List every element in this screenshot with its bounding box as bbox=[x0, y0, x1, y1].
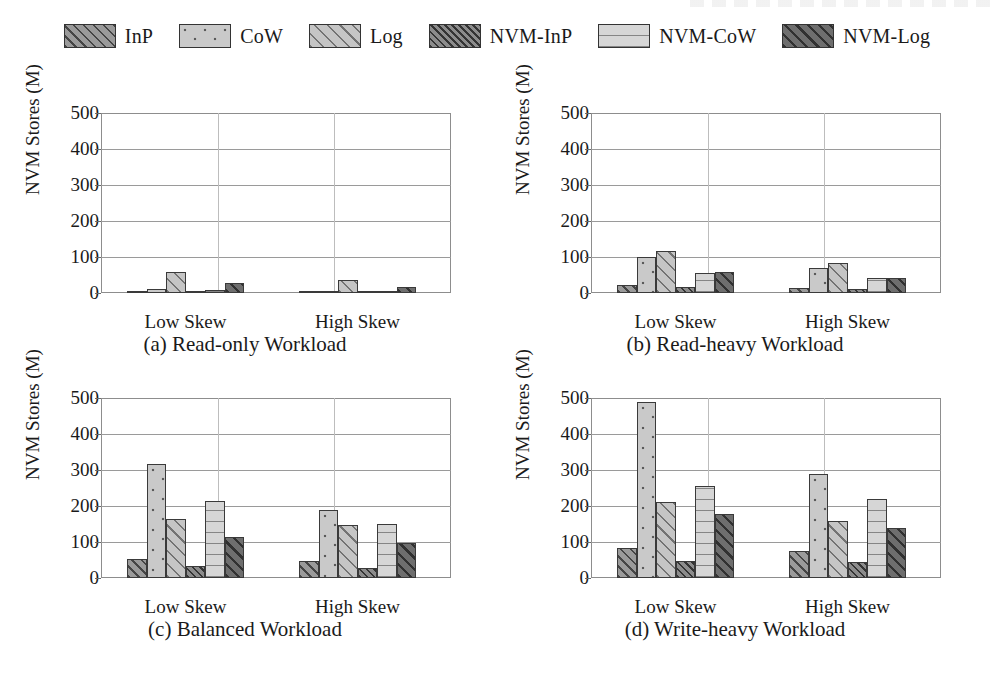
legend-label: NVM-CoW bbox=[659, 25, 756, 48]
y-axis-tick-label: 200 bbox=[529, 210, 589, 232]
y-axis-tick-mark bbox=[585, 149, 591, 150]
gridline bbox=[101, 257, 451, 258]
legend-entry-cow: CoW bbox=[179, 24, 283, 48]
legend-swatch-nvm-inp-icon bbox=[429, 24, 481, 48]
y-axis-tick-mark bbox=[95, 149, 101, 150]
plot-area: 0100200300400500Low SkewHigh Skew bbox=[101, 113, 451, 293]
legend-swatch-log-icon bbox=[309, 24, 361, 48]
y-axis-tick-mark bbox=[95, 113, 101, 114]
gridline bbox=[101, 221, 451, 222]
bar-cow-high-skew bbox=[809, 268, 829, 293]
y-axis-tick-mark bbox=[585, 221, 591, 222]
x-axis-tick-label: Low Skew bbox=[635, 311, 717, 333]
legend-swatch-cow-icon bbox=[179, 24, 231, 48]
bar-cow-low-skew bbox=[637, 402, 657, 578]
bar-log-low-skew bbox=[166, 519, 186, 578]
legend-entry-nvm-inp: NVM-InP bbox=[429, 24, 573, 48]
y-axis-tick-mark bbox=[95, 398, 101, 399]
gridline bbox=[101, 149, 451, 150]
bar-nvm-inp-low-skew bbox=[676, 287, 696, 293]
bar-inp-low-skew bbox=[617, 285, 637, 293]
bar-cow-high-skew bbox=[809, 474, 829, 578]
y-axis-tick-label: 400 bbox=[39, 138, 99, 160]
plot-frame bbox=[101, 113, 451, 293]
bar-nvm-cow-high-skew bbox=[867, 499, 887, 578]
gridline bbox=[101, 185, 451, 186]
y-axis-tick-mark bbox=[585, 293, 591, 294]
bar-log-high-skew bbox=[828, 263, 848, 293]
legend-entry-nvm-log: NVM-Log bbox=[782, 24, 930, 48]
y-axis-tick-mark bbox=[585, 578, 591, 579]
legend-entry-log: Log bbox=[309, 24, 403, 48]
y-axis-tick-mark bbox=[95, 542, 101, 543]
bar-nvm-log-high-skew bbox=[397, 543, 417, 578]
legend-label: NVM-InP bbox=[490, 25, 573, 48]
bar-nvm-log-low-skew bbox=[225, 283, 245, 293]
bar-nvm-log-high-skew bbox=[397, 287, 417, 293]
y-axis-tick-mark bbox=[585, 398, 591, 399]
plot-area: 0100200300400500Low SkewHigh Skew bbox=[591, 398, 941, 578]
y-axis-tick-label: 0 bbox=[529, 567, 589, 589]
y-axis-tick-label: 500 bbox=[529, 387, 589, 409]
plot-area: 0100200300400500Low SkewHigh Skew bbox=[591, 113, 941, 293]
legend-entry-inp: InP bbox=[64, 24, 153, 48]
bar-nvm-inp-low-skew bbox=[676, 561, 696, 578]
legend-label: NVM-Log bbox=[843, 25, 930, 48]
legend-label: InP bbox=[125, 25, 153, 48]
bar-nvm-log-high-skew bbox=[887, 278, 907, 293]
y-axis-tick-label: 400 bbox=[39, 423, 99, 445]
y-axis-tick-label: 100 bbox=[39, 246, 99, 268]
y-axis-tick-label: 400 bbox=[529, 138, 589, 160]
y-axis-tick-mark bbox=[95, 506, 101, 507]
bar-nvm-log-high-skew bbox=[887, 528, 907, 578]
y-axis-tick-label: 100 bbox=[39, 531, 99, 553]
gridline bbox=[591, 221, 941, 222]
x-axis-tick-label: High Skew bbox=[805, 311, 890, 333]
y-axis-tick-label: 0 bbox=[529, 282, 589, 304]
bar-nvm-inp-high-skew bbox=[848, 562, 868, 578]
legend-swatch-inp-icon bbox=[64, 24, 116, 48]
legend-swatch-nvm-cow-icon bbox=[598, 24, 650, 48]
legend-entry-nvm-cow: NVM-CoW bbox=[598, 24, 756, 48]
subplot-c: NVM Stores (M)0100200300400500Low SkewHi… bbox=[0, 385, 490, 667]
y-axis-tick-mark bbox=[95, 221, 101, 222]
group-separator bbox=[708, 113, 709, 293]
bar-log-high-skew bbox=[828, 521, 848, 578]
y-axis-tick-label: 200 bbox=[529, 495, 589, 517]
bar-cow-low-skew bbox=[637, 257, 657, 293]
subplot-caption: (b) Read-heavy Workload bbox=[490, 332, 980, 357]
group-separator bbox=[334, 113, 335, 293]
y-axis-tick-label: 0 bbox=[39, 567, 99, 589]
x-axis-tick-label: High Skew bbox=[805, 596, 890, 618]
gridline bbox=[591, 149, 941, 150]
subplot-b: NVM Stores (M)0100200300400500Low SkewHi… bbox=[490, 100, 980, 382]
bar-log-high-skew bbox=[338, 280, 358, 293]
x-axis-tick-label: Low Skew bbox=[635, 596, 717, 618]
y-axis-tick-label: 200 bbox=[39, 495, 99, 517]
bar-nvm-cow-low-skew bbox=[205, 501, 225, 578]
bar-nvm-inp-high-skew bbox=[848, 289, 868, 293]
y-axis-tick-label: 200 bbox=[39, 210, 99, 232]
y-axis-tick-mark bbox=[585, 470, 591, 471]
y-axis-tick-mark bbox=[95, 470, 101, 471]
legend-swatch-nvm-log-icon bbox=[782, 24, 834, 48]
gridline bbox=[591, 185, 941, 186]
bar-inp-high-skew bbox=[789, 288, 809, 293]
y-axis-tick-label: 500 bbox=[39, 102, 99, 124]
bar-nvm-cow-low-skew bbox=[205, 290, 225, 293]
y-axis-tick-label: 300 bbox=[39, 174, 99, 196]
bar-nvm-log-low-skew bbox=[715, 514, 735, 578]
subplot-a: NVM Stores (M)0100200300400500Low SkewHi… bbox=[0, 100, 490, 382]
y-axis-tick-label: 400 bbox=[529, 423, 589, 445]
bar-cow-high-skew bbox=[319, 510, 339, 578]
bar-log-high-skew bbox=[338, 525, 358, 578]
bar-inp-high-skew bbox=[299, 291, 319, 293]
chart-legend: InPCoWLogNVM-InPNVM-CoWNVM-Log bbox=[0, 24, 994, 48]
y-axis-tick-label: 100 bbox=[529, 246, 589, 268]
y-axis-tick-mark bbox=[95, 578, 101, 579]
bar-nvm-log-low-skew bbox=[225, 537, 245, 578]
x-axis-tick-label: High Skew bbox=[315, 596, 400, 618]
gridline bbox=[101, 434, 451, 435]
legend-label: CoW bbox=[240, 25, 283, 48]
y-axis-tick-mark bbox=[585, 257, 591, 258]
